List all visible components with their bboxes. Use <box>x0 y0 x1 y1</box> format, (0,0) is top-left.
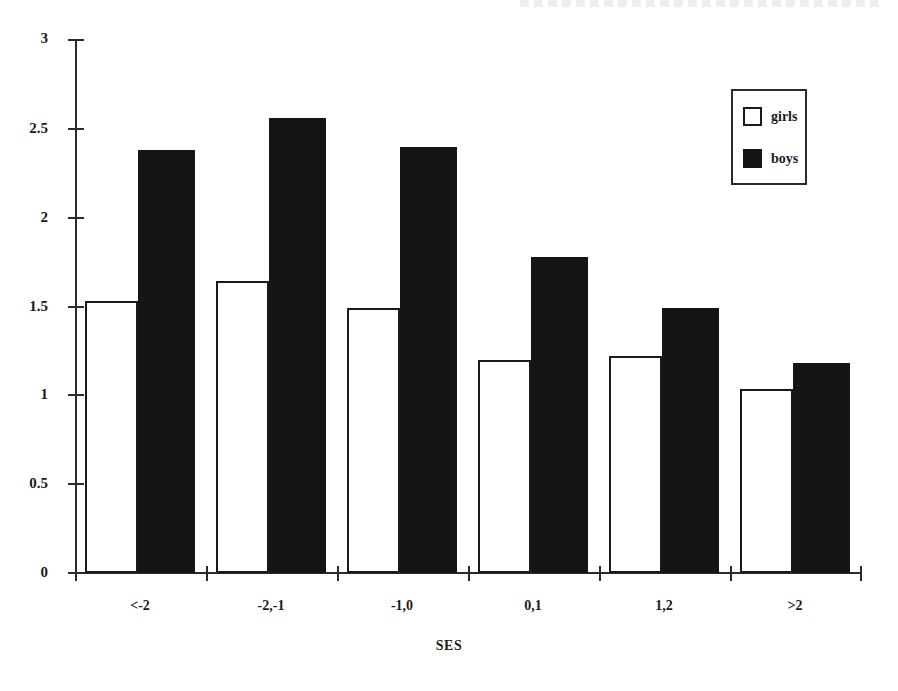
y-tick-label-5: 2.5 <box>0 121 48 136</box>
x-tick-0 <box>75 566 77 581</box>
x-tick-4 <box>599 566 601 581</box>
bar-girls-4 <box>609 356 662 573</box>
y-tick-label-3: 1.5 <box>0 299 48 314</box>
y-tick-4 <box>68 217 84 219</box>
bar-boys-4 <box>662 308 719 573</box>
x-category-label-3: 0,1 <box>473 598 593 614</box>
legend-label-boys: boys <box>771 151 798 167</box>
bar-girls-1 <box>216 281 269 573</box>
x-category-label-0: <-2 <box>80 598 200 614</box>
cropped-title-remnant <box>520 0 880 7</box>
x-tick-1 <box>206 566 208 581</box>
bar-boys-2 <box>400 147 457 573</box>
bar-girls-3 <box>478 360 531 573</box>
bar-boys-5 <box>793 363 850 573</box>
bar-boys-1 <box>269 118 326 573</box>
legend-item-girls: girls <box>743 107 797 126</box>
bar-boys-0 <box>138 150 195 573</box>
x-category-label-4: 1,2 <box>604 598 724 614</box>
legend-swatch-girls-icon <box>743 107 762 126</box>
x-tick-3 <box>468 566 470 581</box>
y-tick-6 <box>68 39 84 41</box>
y-tick-label-0: 0 <box>0 565 48 580</box>
x-category-label-5: >2 <box>735 598 855 614</box>
x-category-label-2: -1,0 <box>342 598 462 614</box>
bar-girls-5 <box>740 389 793 573</box>
x-axis-title: SES <box>0 638 898 654</box>
y-tick-2 <box>68 394 84 396</box>
legend-swatch-boys-icon <box>743 149 762 168</box>
legend: girls boys <box>731 89 807 185</box>
x-tick-2 <box>337 566 339 581</box>
legend-item-boys: boys <box>743 149 798 168</box>
y-tick-1 <box>68 483 84 485</box>
bar-girls-0 <box>85 301 138 573</box>
bar-girls-2 <box>347 308 400 573</box>
bar-boys-3 <box>531 257 588 573</box>
y-tick-label-4: 2 <box>0 210 48 225</box>
legend-label-girls: girls <box>771 109 797 125</box>
y-tick-3 <box>68 306 84 308</box>
x-tick-6 <box>860 566 862 581</box>
y-tick-label-2: 1 <box>0 387 48 402</box>
bar-chart: 0 0.5 1 1.5 2 2.5 3 <-2 -2,-1 -1,0 0,1 1… <box>0 0 898 691</box>
y-tick-5 <box>68 128 84 130</box>
x-category-label-1: -2,-1 <box>211 598 331 614</box>
x-tick-5 <box>730 566 732 581</box>
y-tick-label-6: 3 <box>0 31 48 46</box>
y-tick-label-1: 0.5 <box>0 476 48 491</box>
